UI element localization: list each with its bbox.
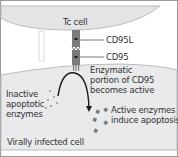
cd95-label: CD95 (106, 52, 129, 62)
inactive-label-1: Inactive (6, 89, 38, 99)
active-label-2: induce apoptosis (111, 115, 178, 125)
cd95l-label: CD95L (106, 35, 133, 45)
inactive-label-3: enzymes (6, 109, 43, 119)
inactive-label-2: apoptotic (6, 99, 44, 109)
diagram-frame: Tc cell CD95L CD95 Enzymatic portion of … (0, 0, 178, 157)
tc-cell-label: Tc cell (63, 17, 87, 27)
enzymatic-label-2: portion of CD95 (90, 75, 154, 85)
active-label-1: Active enzymes (111, 105, 175, 115)
enzymatic-label-3: becomes active (90, 85, 154, 95)
infected-cell-label: Virally infected cell (7, 137, 84, 147)
enzymatic-label-1: Enzymatic (90, 65, 132, 75)
